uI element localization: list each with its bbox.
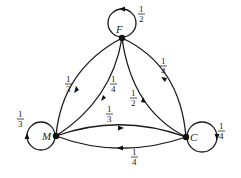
label-m-self: 1 3 [17,109,24,129]
node-m [53,133,59,139]
svg-text:1: 1 [111,74,116,84]
svg-text:1: 1 [161,56,166,66]
svg-text:1: 1 [131,88,136,98]
node-label-m: M [41,130,52,142]
arrow-icon [25,133,30,139]
edge-m-to-c [56,125,186,137]
svg-text:1: 1 [139,4,144,14]
label-m-to-f: 1 3 [65,74,72,94]
label-f-to-m: 1 4 [110,74,117,94]
node-f [119,35,125,41]
svg-text:1: 1 [107,104,112,114]
arrow-icon [119,7,125,12]
svg-text:4: 4 [161,66,166,76]
svg-text:1: 1 [18,109,23,119]
arrow-icon [117,146,123,151]
svg-text:3: 3 [66,84,71,94]
label-c-self: 1 4 [218,121,225,141]
svg-text:3: 3 [18,119,23,129]
label-c-to-m: 1 4 [131,147,138,167]
arrow-icon [101,95,106,101]
label-m-to-c: 1 3 [106,104,113,124]
svg-text:1: 1 [132,147,137,157]
markov-chain-diagram: F M C 1 2 1 3 1 4 1 3 1 4 1 2 1 4 [0,0,241,178]
svg-text:3: 3 [107,114,112,124]
node-c [183,134,189,140]
svg-text:4: 4 [111,84,116,94]
label-f-to-c: 1 4 [160,56,167,76]
node-label-f: F [115,23,123,35]
arrow-icon [74,86,79,93]
svg-text:1: 1 [66,74,71,84]
svg-text:4: 4 [219,131,224,141]
svg-text:4: 4 [132,157,137,167]
node-label-c: C [190,131,198,143]
arrow-icon [161,77,167,82]
label-f-self: 1 2 [138,4,145,24]
arrow-icon [118,126,124,131]
svg-text:2: 2 [131,98,136,108]
svg-text:2: 2 [139,14,144,24]
label-c-to-f: 1 2 [130,88,137,108]
svg-text:1: 1 [219,121,224,131]
